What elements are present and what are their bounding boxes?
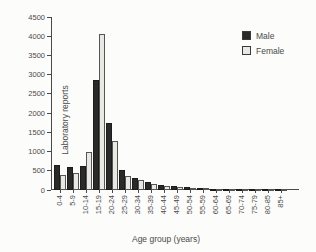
x-tick-mark-35-39 xyxy=(151,190,152,193)
x-tick-label-30-34: 30-34 xyxy=(133,195,142,221)
y-tick-mark-1000 xyxy=(47,151,51,152)
y-tick-mark-2000 xyxy=(47,113,51,114)
x-tick-mark-55-59 xyxy=(203,190,204,193)
y-tick-label-2500: 2500 xyxy=(5,89,45,98)
bar-female-0-4 xyxy=(60,175,66,190)
x-tick-mark-15-19 xyxy=(99,190,100,193)
legend-item-male: Male xyxy=(242,28,284,43)
y-tick-label-500: 500 xyxy=(5,166,45,175)
x-tick-label-40-44: 40-44 xyxy=(159,195,168,221)
x-tick-mark-5-9 xyxy=(73,190,74,193)
y-tick-mark-4000 xyxy=(47,36,51,37)
x-tick-label-45-49: 45-49 xyxy=(172,195,181,221)
x-tick-label-15-19: 15-19 xyxy=(94,195,103,221)
x-tick-label-80-85: 80-85 xyxy=(263,195,272,221)
y-tick-label-4500: 4500 xyxy=(5,13,45,22)
y-tick-label-0: 0 xyxy=(5,186,45,195)
x-tick-label-65-69: 65-69 xyxy=(224,195,233,221)
y-axis-title: Laboratory reports xyxy=(60,60,72,180)
legend-item-female: Female xyxy=(242,43,284,58)
x-tick-label-25-29: 25-29 xyxy=(120,195,129,221)
y-tick-mark-4500 xyxy=(47,17,51,18)
y-tick-label-1000: 1000 xyxy=(5,147,45,156)
y-tick-label-2000: 2000 xyxy=(5,109,45,118)
y-tick-mark-2500 xyxy=(47,93,51,94)
male-swatch-icon xyxy=(242,31,251,40)
y-tick-label-1500: 1500 xyxy=(5,128,45,137)
x-tick-label-70-74: 70-74 xyxy=(237,195,246,221)
x-tick-label-35-39: 35-39 xyxy=(146,195,155,221)
x-tick-mark-20-24 xyxy=(112,190,113,193)
x-tick-mark-25-29 xyxy=(125,190,126,193)
x-tick-label-75-79: 75-79 xyxy=(250,195,259,221)
y-tick-label-4000: 4000 xyxy=(5,32,45,41)
x-tick-mark-65-69 xyxy=(229,190,230,193)
y-tick-mark-3000 xyxy=(47,74,51,75)
bar-female-25-29 xyxy=(125,176,131,190)
x-tick-label-60-64: 60-64 xyxy=(211,195,220,221)
y-tick-label-3000: 3000 xyxy=(5,70,45,79)
x-tick-mark-85+ xyxy=(281,190,282,193)
x-axis-title: Age group (years) xyxy=(51,234,281,244)
legend-label-male: Male xyxy=(256,31,274,41)
bar-female-10-14 xyxy=(86,152,92,190)
bar-female-20-24 xyxy=(112,141,118,190)
x-tick-mark-75-79 xyxy=(255,190,256,193)
legend-label-female: Female xyxy=(256,46,284,56)
x-tick-mark-0-4 xyxy=(60,190,61,193)
x-tick-label-10-14: 10-14 xyxy=(81,195,90,221)
y-tick-mark-3500 xyxy=(47,55,51,56)
y-tick-mark-500 xyxy=(47,170,51,171)
x-tick-mark-10-14 xyxy=(86,190,87,193)
legend: Male Female xyxy=(242,28,284,58)
x-tick-mark-40-44 xyxy=(164,190,165,193)
x-tick-mark-60-64 xyxy=(216,190,217,193)
x-tick-label-55-59: 55-59 xyxy=(198,195,207,221)
female-swatch-icon xyxy=(242,46,251,55)
chart-figure: Laboratory reports 050010001500200025003… xyxy=(0,0,316,252)
x-tick-mark-80-85 xyxy=(268,190,269,193)
y-tick-mark-0 xyxy=(47,190,51,191)
x-tick-label-20-24: 20-24 xyxy=(107,195,116,221)
x-tick-mark-30-34 xyxy=(138,190,139,193)
bar-female-30-34 xyxy=(138,180,144,190)
x-tick-mark-45-49 xyxy=(177,190,178,193)
x-tick-mark-70-74 xyxy=(242,190,243,193)
x-tick-label-85+: 85+ xyxy=(276,195,285,221)
x-tick-mark-50-54 xyxy=(190,190,191,193)
x-tick-label-0-4: 0-4 xyxy=(55,195,64,221)
x-tick-label-5-9: 5-9 xyxy=(68,195,77,221)
x-tick-label-50-54: 50-54 xyxy=(185,195,194,221)
y-tick-label-3500: 3500 xyxy=(5,51,45,60)
y-tick-mark-1500 xyxy=(47,132,51,133)
bar-female-5-9 xyxy=(73,173,79,190)
bar-female-15-19 xyxy=(99,34,105,190)
